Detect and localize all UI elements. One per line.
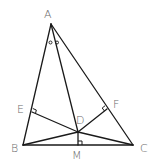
segment-AB [23,24,51,145]
label-A: A [44,9,52,20]
angle-mark-left-icon [49,41,52,44]
geometry-diagram: A E F D B M C [0,0,159,166]
label-C: C [140,143,148,154]
point-D-dot [77,131,79,133]
segment-AC [51,24,133,145]
label-D: D [76,115,84,126]
triangle-figure [0,0,159,166]
label-F: F [113,99,119,110]
segment-DE [32,112,78,132]
segment-BD [23,132,78,145]
label-E: E [17,104,24,115]
label-B: B [11,143,18,154]
segment-AD [51,24,78,132]
label-M: M [72,150,82,161]
